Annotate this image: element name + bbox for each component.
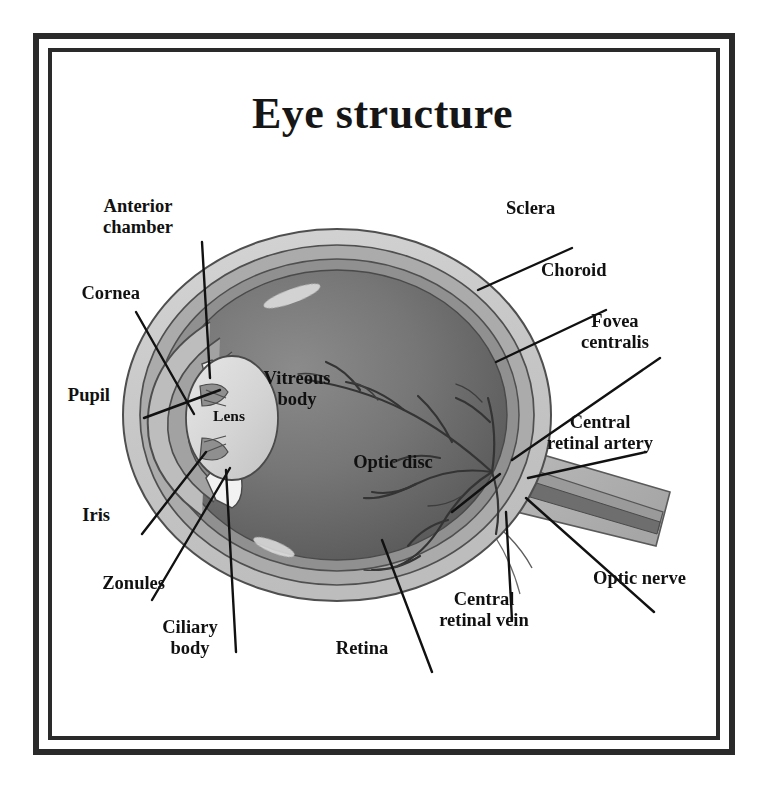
label-anterior-chamber: Anterior chamber <box>78 196 198 237</box>
label-central-retinal-vein: Central retinal vein <box>406 589 562 630</box>
label-optic-nerve: Optic nerve <box>593 568 753 589</box>
label-cornea: Cornea <box>0 283 140 304</box>
label-sclera: Sclera <box>506 198 626 219</box>
label-vitreous-body: Vitreous body <box>237 368 357 409</box>
label-choroid: Choroid <box>541 260 681 281</box>
label-iris: Iris <box>0 505 110 526</box>
label-ciliary-body: Ciliary body <box>135 617 245 658</box>
label-retina: Retina <box>312 638 412 659</box>
diagram-page: Eye structure <box>0 0 765 791</box>
label-central-retinal-artery: Central retinal artery <box>514 412 686 453</box>
label-lens: Lens <box>194 407 264 424</box>
label-fovea-centralis: Fovea centralis <box>549 311 681 352</box>
label-zonules: Zonules <box>0 573 165 594</box>
label-optic-disc: Optic disc <box>333 452 453 473</box>
label-pupil: Pupil <box>0 385 110 406</box>
